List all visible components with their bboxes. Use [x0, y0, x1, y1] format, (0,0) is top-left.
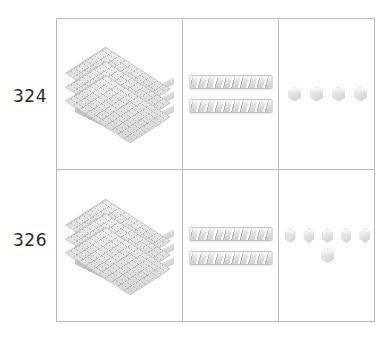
unit-cube-row	[285, 248, 371, 263]
ones-unit-cube	[322, 228, 334, 243]
ones-unit-cube	[359, 228, 371, 243]
unit-cube-row	[285, 228, 371, 243]
unit-group	[285, 223, 371, 268]
tens-cell	[182, 19, 278, 169]
flat-top	[65, 226, 171, 295]
flat-top	[65, 75, 171, 144]
hundreds-flat	[65, 208, 169, 312]
ones-unit-cube	[285, 228, 297, 243]
ones-unit-cube	[287, 87, 302, 102]
table-row	[57, 170, 374, 321]
tens-cell	[182, 170, 278, 321]
ones-unit-cube	[309, 87, 324, 102]
rod-group	[189, 65, 272, 123]
ones-unit-cube	[303, 228, 315, 243]
flat-stack	[61, 28, 179, 160]
row-label-324: 324	[8, 86, 52, 106]
tens-rod	[189, 251, 272, 265]
ones-unit-cube	[331, 87, 346, 102]
ones-unit-cube	[353, 87, 368, 102]
table-row	[57, 19, 374, 170]
ones-cell	[278, 19, 376, 169]
tens-rod	[189, 75, 272, 89]
ones-cell	[278, 170, 376, 321]
hundreds-cell	[57, 170, 182, 321]
rod-group	[189, 217, 272, 275]
ones-unit-cube	[320, 248, 335, 263]
flat-stack	[61, 180, 179, 312]
base-ten-blocks-figure: 324 326	[0, 0, 391, 343]
hundreds-cell	[57, 19, 182, 169]
hundreds-flat	[65, 56, 169, 160]
unit-cube-row	[285, 87, 371, 102]
ones-unit-cube	[340, 228, 352, 243]
row-label-326: 326	[8, 230, 52, 250]
tens-rod	[189, 99, 272, 113]
blocks-table	[56, 18, 375, 322]
unit-group	[285, 82, 371, 107]
tens-rod	[189, 227, 272, 241]
